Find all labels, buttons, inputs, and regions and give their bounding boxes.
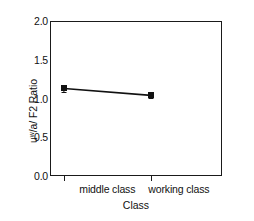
x-axis-tick-mark [64, 176, 65, 181]
data-series-layer [50, 21, 222, 176]
y-axis-title: uʷ/a/ F2 Ratio [27, 41, 39, 181]
y-axis-tick-label: 1.5 [0, 55, 48, 65]
data-point-marker [148, 92, 154, 98]
y-axis-tick-label: 0.0 [0, 171, 48, 181]
data-point-marker [61, 85, 67, 91]
x-axis-tick-label: working class [124, 183, 234, 195]
series-line [50, 21, 222, 176]
error-bar-cap-lower [62, 92, 67, 93]
chart-figure: 0.0 0.5 1.0 1.5 2.0 uʷ/a/ F2 Ratio middl… [0, 0, 254, 221]
y-axis-tick-label: 1.0 [0, 94, 48, 104]
y-axis-tick-label: 2.0 [0, 16, 48, 26]
y-axis-tick-label: 0.5 [0, 132, 48, 142]
x-axis-title: Class [50, 199, 222, 211]
x-axis-tick-mark [151, 176, 152, 181]
series-line-segment [64, 88, 151, 95]
